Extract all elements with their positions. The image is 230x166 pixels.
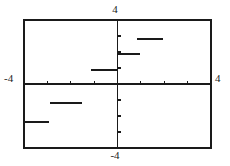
axis-label-y-min: -4 <box>0 150 230 161</box>
axis-label-y-max: 4 <box>0 4 230 15</box>
plot-canvas <box>0 0 230 166</box>
plot-axes <box>24 20 211 148</box>
data-series-step-function <box>24 39 163 122</box>
plot-figure: 4 -4 -4 4 <box>0 0 230 166</box>
axis-label-x-max: 4 <box>215 73 221 84</box>
axis-label-x-min: -4 <box>4 73 13 84</box>
